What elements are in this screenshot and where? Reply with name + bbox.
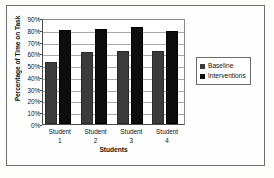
y-axis-tick-labels: 90%80%70%60%50%40%30%20%10%0% <box>22 19 42 125</box>
bar-baseline <box>117 51 129 124</box>
y-axis-tick-label: 50% <box>28 63 41 70</box>
bar-group <box>43 20 79 124</box>
y-axis-tick-label: 80% <box>28 27 41 34</box>
y-axis-tick-label: 30% <box>28 86 41 93</box>
x-axis-category-label: Student2 <box>79 127 113 145</box>
y-axis-tick-label: 20% <box>28 98 41 105</box>
bar-baseline <box>81 52 93 124</box>
bar-baseline <box>45 62 57 124</box>
baseline-swatch-icon <box>200 64 205 69</box>
chart-page: Percentage of Time on Task 90%80%70%60%5… <box>0 0 274 178</box>
x-axis-category-label: Student4 <box>150 127 184 145</box>
y-axis-tick-label: 40% <box>28 74 41 81</box>
y-axis-tick-label: 0% <box>31 122 40 129</box>
bar-intervention <box>95 29 107 124</box>
legend-item-label: Interventions <box>208 72 246 80</box>
y-axis-tick-label: 60% <box>28 51 41 58</box>
y-axis-tick-label: 70% <box>28 39 41 46</box>
bar-intervention <box>131 27 143 124</box>
bar-intervention <box>166 31 178 124</box>
y-axis-tick-label: 10% <box>28 110 41 117</box>
legend-item: Baseline <box>200 61 246 71</box>
legend-item-label: Baseline <box>208 62 233 70</box>
y-axis-title: Percentage of Time on Task <box>14 3 21 115</box>
bar-group <box>150 20 186 124</box>
x-axis-category-label: Student1 <box>43 127 77 145</box>
interventions-swatch-icon <box>200 74 205 79</box>
y-axis-tick-mark <box>40 125 42 126</box>
bar-baseline <box>152 51 164 124</box>
legend-item: Interventions <box>200 71 246 81</box>
chart-legend: BaselineInterventions <box>196 57 251 85</box>
bar-group <box>79 20 115 124</box>
bar-group <box>115 20 151 124</box>
plot-area <box>42 19 185 125</box>
bar-intervention <box>59 30 71 124</box>
y-axis-tick-label: 90% <box>28 16 41 23</box>
x-axis-title: Students <box>42 146 185 153</box>
x-axis-category-label: Student3 <box>114 127 148 145</box>
bar-chart: Percentage of Time on Task 90%80%70%60%5… <box>0 0 274 178</box>
